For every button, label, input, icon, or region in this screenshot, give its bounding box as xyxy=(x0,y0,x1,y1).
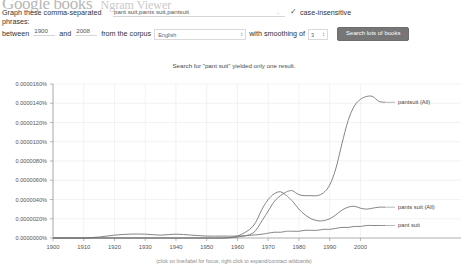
series-label[interactable]: pants suit (All) xyxy=(398,204,435,210)
select-arrow-icon: ↕ xyxy=(240,30,243,39)
case-insensitive-checkbox[interactable]: ✓ xyxy=(290,10,296,16)
y-axis-tick-labels: 0.0000000%0.0000020%0.0000040%0.0000060%… xyxy=(16,81,47,241)
smoothing-select[interactable]: 3 ↕ xyxy=(308,29,328,40)
series-line[interactable] xyxy=(53,96,385,238)
x-tick-label: 1910 xyxy=(77,244,90,250)
ngram-query-input[interactable] xyxy=(113,8,285,17)
case-insensitive-control[interactable]: ✓ case-insensitive xyxy=(290,8,351,17)
result-notice: Search for "pant suit" yielded only one … xyxy=(0,62,468,69)
select-arrow-icon: ↕ xyxy=(322,30,325,39)
x-axis-tick-labels: 1900191019201930194019501960197019801990… xyxy=(47,244,367,250)
series-label[interactable]: pantsuit (All) xyxy=(398,99,430,105)
series-labels[interactable]: pantsuit (All)pants suit (All)pant suit xyxy=(385,99,435,228)
y-tick-label: 0.0000040% xyxy=(16,197,47,203)
axes xyxy=(50,84,461,241)
y-tick-label: 0.0000020% xyxy=(16,216,47,222)
year-end-input[interactable] xyxy=(75,27,97,36)
series-line[interactable] xyxy=(53,192,385,238)
smoothing-label: with smoothing of xyxy=(249,29,305,38)
x-tick-label: 1940 xyxy=(170,244,183,250)
phrases-row: Graph these comma-separated xyxy=(2,8,285,17)
y-tick-label: 0.0000100% xyxy=(16,139,47,145)
x-tick-label: 1920 xyxy=(108,244,121,250)
case-insensitive-label: case-insensitive xyxy=(300,8,351,17)
corpus-select-value: English xyxy=(158,31,176,40)
chart-svg[interactable]: 0.0000000%0.0000020%0.0000040%0.0000060%… xyxy=(0,80,468,266)
series-label[interactable]: pant suit xyxy=(398,222,420,228)
range-row: between and from the corpus English ↕ wi… xyxy=(2,27,409,41)
x-tick-label: 2000 xyxy=(354,244,367,250)
series-lines[interactable] xyxy=(53,96,385,238)
y-tick-label: 0.0000000% xyxy=(16,235,47,241)
y-tick-label: 0.0000140% xyxy=(16,100,47,106)
x-tick-label: 1970 xyxy=(262,244,275,250)
checkmark-icon: ✓ xyxy=(290,8,297,16)
corpus-select[interactable]: English ↕ xyxy=(154,29,246,40)
ngram-chart[interactable]: 0.0000000%0.0000020%0.0000040%0.0000060%… xyxy=(0,80,468,266)
x-tick-label: 1980 xyxy=(292,244,305,250)
and-label: and xyxy=(59,29,71,38)
series-line[interactable] xyxy=(53,225,385,238)
y-tick-label: 0.0000120% xyxy=(16,120,47,126)
corpus-label: from the corpus xyxy=(101,29,151,38)
y-tick-label: 0.0000080% xyxy=(16,158,47,164)
x-tick-label: 1950 xyxy=(200,244,213,250)
separator-dash: - xyxy=(277,9,279,16)
smoothing-select-value: 3 xyxy=(311,31,314,40)
grid-lines xyxy=(53,84,461,238)
x-tick-label: 1960 xyxy=(231,244,244,250)
search-button[interactable]: Search lots of books xyxy=(337,27,409,41)
x-tick-label: 1900 xyxy=(47,244,60,250)
year-start-input[interactable] xyxy=(33,27,55,36)
x-tick-label: 1990 xyxy=(323,244,336,250)
phrases-label: Graph these comma-separated xyxy=(2,8,107,17)
chart-footnote: (click on line/label for focus, right cl… xyxy=(0,258,468,264)
between-label: between xyxy=(2,29,29,38)
y-tick-label: 0.0000060% xyxy=(16,177,47,183)
x-tick-label: 1930 xyxy=(139,244,152,250)
phrases-label-line2: phrases: xyxy=(2,17,30,26)
y-tick-label: 0.0000160% xyxy=(16,81,47,87)
